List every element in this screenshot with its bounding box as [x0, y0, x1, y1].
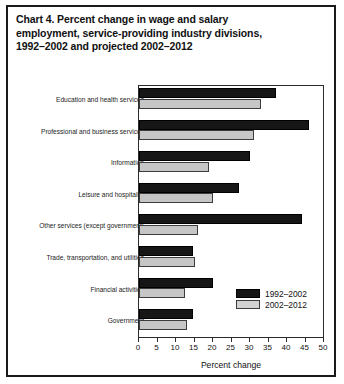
- bar-series-2002-2012: [139, 257, 195, 267]
- x-axis-tick: [323, 338, 324, 342]
- bar-series-1992-2002: [139, 278, 213, 288]
- x-axis-tick: [175, 338, 176, 342]
- bar-series-1992-2002: [139, 214, 302, 224]
- x-axis: 05101520253035404550: [138, 338, 324, 339]
- bar-series-1992-2002: [139, 246, 193, 256]
- bar-series-1992-2002: [139, 120, 309, 130]
- x-axis-tick: [138, 338, 139, 342]
- bar-series-2002-2012: [139, 288, 185, 298]
- chart-category-group: Trade, transportation, and utilities: [8, 244, 334, 276]
- category-label: Other services (except government): [16, 222, 144, 230]
- category-label: Trade, transportation, and utilities: [16, 254, 144, 262]
- x-axis-tick: [194, 338, 195, 342]
- legend-swatch-icon: [236, 300, 260, 309]
- chart-title-line-1: Chart 4. Percent change in wage and sala…: [16, 13, 328, 27]
- x-axis-tick: [286, 338, 287, 342]
- x-axis-tick: [157, 338, 158, 342]
- legend-swatch-icon: [236, 289, 260, 298]
- chart-title: Chart 4. Percent change in wage and sala…: [16, 13, 328, 54]
- category-label: Education and health services: [16, 96, 144, 104]
- bar-series-2002-2012: [139, 162, 209, 172]
- chart-title-line-2: employment, service-providing industry d…: [16, 27, 328, 41]
- x-axis-tick: [212, 338, 213, 342]
- x-axis-tick: [268, 338, 269, 342]
- x-axis-tick: [249, 338, 250, 342]
- x-axis-title: Percent change: [138, 360, 324, 370]
- bar-series-2002-2012: [139, 225, 198, 235]
- legend-label: 2002–2012: [265, 300, 307, 310]
- x-axis-tick-label: 50: [311, 343, 335, 352]
- chart-figure: Chart 4. Percent change in wage and sala…: [6, 5, 336, 377]
- chart-category-group: Education and health services: [8, 86, 334, 118]
- x-axis-tick: [305, 338, 306, 342]
- bar-series-1992-2002: [139, 151, 250, 161]
- x-axis-tick: [231, 338, 232, 342]
- category-label: Government: [16, 317, 144, 325]
- category-label: Professional and business services: [16, 128, 144, 136]
- chart-category-group: Professional and business services: [8, 118, 334, 150]
- bar-series-2002-2012: [139, 320, 187, 330]
- category-label: Leisure and hospitality: [16, 191, 144, 199]
- category-label: Financial activities: [16, 286, 144, 294]
- chart-title-line-3: 1992–2002 and projected 2002–2012: [16, 40, 328, 54]
- bar-series-2002-2012: [139, 130, 254, 140]
- bar-series-1992-2002: [139, 183, 239, 193]
- chart-legend: 1992–2002 2002–2012: [236, 288, 307, 310]
- chart-category-group: Other services (except government): [8, 212, 334, 244]
- bar-series-2002-2012: [139, 99, 261, 109]
- chart-category-group: Leisure and hospitality: [8, 181, 334, 213]
- legend-item: 2002–2012: [236, 299, 307, 310]
- legend-item: 1992–2002: [236, 288, 307, 299]
- category-label: Information: [16, 159, 144, 167]
- bar-series-1992-2002: [139, 88, 276, 98]
- bar-series-2002-2012: [139, 193, 213, 203]
- chart-category-group: Information: [8, 149, 334, 181]
- bar-series-1992-2002: [139, 309, 193, 319]
- legend-label: 1992–2002: [265, 289, 307, 299]
- chart-category-group: Government: [8, 307, 334, 339]
